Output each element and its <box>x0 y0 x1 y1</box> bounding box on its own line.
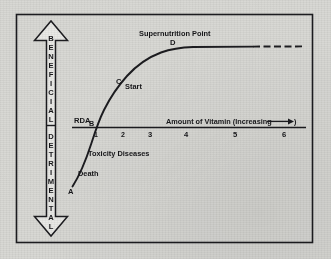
x-tick-label: 2 <box>121 131 125 138</box>
point-label-b: B <box>89 119 94 128</box>
x-axis-title: Amount of Vitamin (Increasing ) <box>166 117 297 126</box>
beneficial-letter: N <box>48 52 53 61</box>
point-label-d: D <box>170 38 176 47</box>
beneficial-letter: I <box>50 79 52 88</box>
beneficial-letter: A <box>48 106 54 115</box>
beneficial-letter: I <box>50 97 52 106</box>
detrimental-letter: A <box>48 213 54 222</box>
detrimental-letter: M <box>48 177 54 186</box>
x-axis-tick-labels: 1 2 3 4 5 6 <box>94 130 286 139</box>
beneficial-letter: L <box>49 115 54 124</box>
detrimental-letter: E <box>48 141 53 150</box>
beneficial-letter: F <box>49 70 54 79</box>
detrimental-letter: T <box>49 204 54 213</box>
start-label: Start <box>125 82 142 91</box>
x-tick-label: 6 <box>282 130 286 139</box>
x-axis-title-close-paren: ) <box>294 117 297 126</box>
beneficial-letter: C <box>48 88 54 97</box>
x-axis-title-text: Amount of Vitamin (Increasing <box>166 117 272 126</box>
detrimental-letter: N <box>48 195 53 204</box>
beneficial-letter: E <box>48 43 53 52</box>
figure-frame <box>17 15 313 243</box>
x-tick-label: 4 <box>184 130 189 139</box>
supernutrition-point-label: Supernutrition Point <box>139 29 211 38</box>
beneficial-letter: E <box>48 61 53 70</box>
detrimental-letter: E <box>48 186 53 195</box>
detrimental-letter: T <box>49 150 54 159</box>
detrimental-letter: L <box>49 222 54 231</box>
scale-label-detrimental: D E T R I M E N T A L <box>48 132 54 231</box>
toxicity-diseases-label: Toxicity Diseases <box>88 149 150 158</box>
beneficial-letter: B <box>48 34 54 43</box>
point-label-a: A <box>68 187 74 196</box>
vitamin-dose-response-diagram: B E N E F I C I A L D E T R I M E N T A … <box>0 0 331 259</box>
x-tick-label: 3 <box>148 130 152 139</box>
x-tick-label: 5 <box>233 130 238 139</box>
detrimental-letter: I <box>50 168 52 177</box>
detrimental-letter: R <box>48 159 54 168</box>
detrimental-letter: D <box>48 132 54 141</box>
point-label-c: C <box>116 77 122 86</box>
death-label: Death <box>78 169 99 178</box>
figure-page: B E N E F I C I A L D E T R I M E N T A … <box>0 0 331 259</box>
